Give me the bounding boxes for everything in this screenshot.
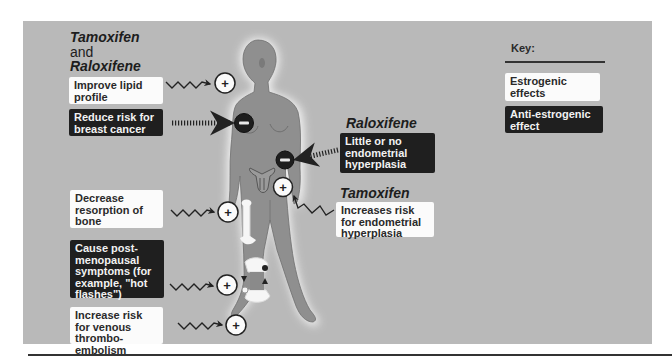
minus-marker-endometrium xyxy=(276,151,294,169)
zigzag-arrow-venous xyxy=(178,323,222,329)
zigzag-arrow-bone xyxy=(171,210,214,216)
effect-box-bone: Decrease resorption of bone xyxy=(70,190,163,228)
plus-marker-bone: + xyxy=(218,202,238,222)
plus-marker-lipid: + xyxy=(215,73,235,93)
zigzag-arrow-lipid xyxy=(166,82,210,88)
zigzag-arrow-hot-flashes xyxy=(170,284,213,290)
key-divider xyxy=(505,61,605,63)
svg-text:+: + xyxy=(224,205,232,220)
heading-tamoxifen: Tamoxifen xyxy=(70,30,140,44)
effect-box-lipid: Improve lipid profile xyxy=(69,77,163,104)
svg-text:+: + xyxy=(232,318,240,333)
plus-marker-endometrium: + xyxy=(274,178,293,197)
svg-text:+: + xyxy=(279,180,287,195)
ear-icon xyxy=(259,58,265,68)
effect-box-hot-flashes: Cause post-menopausal symptoms (for exam… xyxy=(70,240,164,298)
svg-text:+: + xyxy=(221,76,229,91)
svg-text:+: + xyxy=(223,278,231,293)
tamoxifen-title: Tamoxifen xyxy=(340,186,410,200)
plus-marker-venous: + xyxy=(226,315,246,335)
key-estrogenic: Estrogenic effects xyxy=(505,73,600,101)
minus-marker-breast xyxy=(235,114,254,133)
key-anti-estrogenic: Anti-estrogenic effect xyxy=(505,106,603,133)
heading-and: and xyxy=(70,45,93,59)
effect-box-venous: Increase risk for venous thrombo-embolis… xyxy=(70,307,163,344)
effect-box-raloxifene-endometrium: Little or no endometrial hyperplasia xyxy=(340,133,435,173)
plus-marker-hot-flashes: + xyxy=(217,275,237,295)
bottom-rule xyxy=(28,354,672,356)
key-title: Key: xyxy=(511,42,535,54)
raloxifene-title: Raloxifene xyxy=(346,116,417,130)
effect-box-tamoxifen-endometrium: Increases risk for endometrial hyperplas… xyxy=(336,202,434,237)
heading-raloxifene: Raloxifene xyxy=(70,59,141,73)
effect-box-breast-cancer: Reduce risk for breast cancer xyxy=(69,109,163,136)
